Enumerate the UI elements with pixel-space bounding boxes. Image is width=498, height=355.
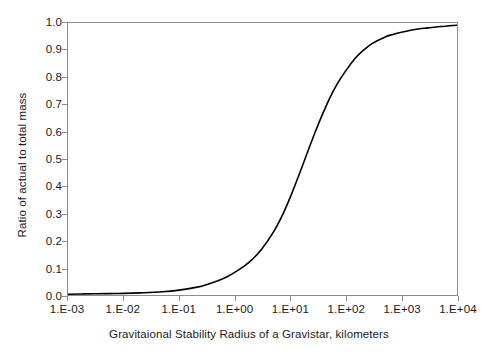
x-tick-mark — [67, 296, 68, 301]
y-tick-label: 0.4 — [0, 180, 62, 192]
plot-area — [67, 22, 458, 296]
y-axis-title: Ratio of actual to total mass — [16, 65, 28, 265]
series-line-path — [68, 25, 457, 294]
x-tick-mark — [346, 296, 347, 301]
y-tick-label: 1.0 — [0, 16, 62, 28]
y-tick-label: 0.5 — [0, 153, 62, 165]
x-axis-tick-labels: 1.E-031.E-021.E-011.E+001.E+011.E+021.E+… — [0, 302, 498, 318]
x-axis-title: Gravitaional Stability Radius of a Gravi… — [0, 328, 498, 340]
data-curve — [68, 23, 457, 295]
x-tick-mark — [179, 296, 180, 301]
y-tick-label: 0.0 — [0, 290, 62, 302]
x-tick-label: 1.E+04 — [423, 302, 493, 316]
y-tick-label: 0.3 — [0, 208, 62, 220]
x-tick-mark — [290, 296, 291, 301]
x-tick-mark — [402, 296, 403, 301]
y-tick-label: 0.7 — [0, 98, 62, 110]
y-tick-label: 0.1 — [0, 263, 62, 275]
y-tick-label: 0.2 — [0, 235, 62, 247]
y-tick-label: 0.6 — [0, 126, 62, 138]
x-tick-mark — [235, 296, 236, 301]
x-tick-mark — [458, 296, 459, 301]
chart-figure: 0.00.10.20.30.40.50.60.70.80.91.0 Ratio … — [0, 0, 498, 355]
x-tick-mark — [123, 296, 124, 301]
y-tick-label: 0.9 — [0, 43, 62, 55]
y-tick-label: 0.8 — [0, 71, 62, 83]
